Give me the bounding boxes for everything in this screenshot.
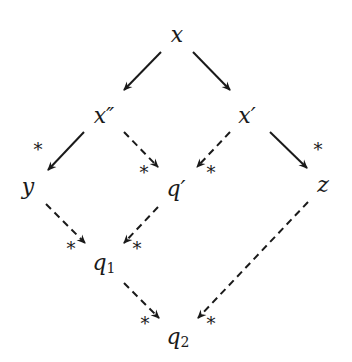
star-label-qp-to-q1: * — [133, 238, 142, 259]
star-label-x2-to-y: * — [34, 139, 43, 160]
star-label-x1-to-z: * — [314, 139, 323, 160]
star-label-q1-to-q2: * — [141, 313, 150, 334]
arrow-z-to-q2 — [198, 202, 308, 318]
node-subscript: 2 — [181, 334, 190, 350]
arrow-x-to-x2 — [124, 52, 161, 90]
node-qp: q′ — [166, 176, 185, 201]
star-label-x2-to-qp: * — [140, 162, 149, 183]
arrow-x-to-x1 — [193, 52, 230, 90]
node-q1: q1 — [92, 250, 115, 276]
arrow-y-to-q1 — [46, 204, 85, 243]
star-label-y-to-q1: * — [67, 238, 76, 259]
node-x: x — [171, 22, 184, 47]
diagram-canvas: xx″x′yq′zq1q2 ******** — [0, 0, 352, 362]
node-x2: x″ — [94, 103, 115, 128]
node-subscript: 1 — [107, 260, 116, 276]
arrow-x1-to-z — [270, 132, 307, 168]
star-label-z-to-q2: * — [207, 313, 216, 334]
node-z: z — [316, 172, 329, 197]
node-y: y — [21, 174, 35, 199]
arrow-x2-to-y — [48, 132, 84, 170]
star-label-x1-to-qp: * — [207, 162, 216, 183]
node-q2: q2 — [166, 324, 189, 350]
node-x1: x′ — [238, 103, 255, 128]
